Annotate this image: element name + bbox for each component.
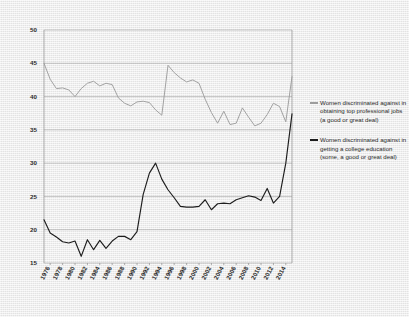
x-tick-label: 1998 [175,265,188,281]
y-axis-tick-labels: 1520253035404550 [30,26,37,266]
x-tick-label: 1984 [88,265,101,281]
x-tick-label: 1986 [100,265,113,281]
x-tick-label: 1990 [125,265,138,281]
series-line-1 [44,63,292,126]
x-tick-label: 1978 [51,265,64,281]
series-line-2 [44,114,292,256]
y-tick-label: 45 [30,59,37,66]
x-tick-label: 2010 [249,265,262,281]
x-tick-label: 2004 [212,265,225,281]
y-tick-label: 50 [30,26,37,33]
x-tick-label: 1996 [162,265,175,281]
legend-swatch-line-icon [310,102,318,104]
x-tick-label: 2006 [224,265,237,281]
y-tick-label: 25 [30,193,37,200]
legend-item[interactable]: Women discriminated against in getting a… [310,136,408,161]
x-tick-label: 2012 [262,265,275,281]
x-tick-label: 1980 [63,265,76,281]
x-tick-label: 1982 [76,265,89,281]
data-series-group [44,63,292,256]
x-tick-label: 2014 [274,265,287,281]
x-tick-label: 2000 [187,265,200,281]
chart-legend: Women discriminated against in obtaining… [310,99,408,173]
legend-swatch-line-icon [310,139,318,141]
legend-label: Women discriminated against in obtaining… [320,99,408,124]
x-tick-label: 1976 [38,265,51,281]
legend-item[interactable]: Women discriminated against in obtaining… [310,99,408,124]
legend-label: Women discriminated against in getting a… [320,136,408,161]
y-tick-label: 35 [30,126,37,133]
y-tick-label: 15 [30,259,37,266]
x-tick-label: 1988 [113,265,126,281]
x-tick-label: 2008 [237,265,250,281]
x-tick-label: 1994 [150,265,163,281]
x-axis-tick-labels: 1976197819801982198419861988199019921994… [38,263,287,281]
y-tick-label: 30 [30,159,37,166]
x-tick-label: 1992 [138,265,151,281]
x-tick-label: 2002 [200,265,213,281]
y-tick-label: 20 [30,226,37,233]
y-tick-label: 40 [30,93,37,100]
